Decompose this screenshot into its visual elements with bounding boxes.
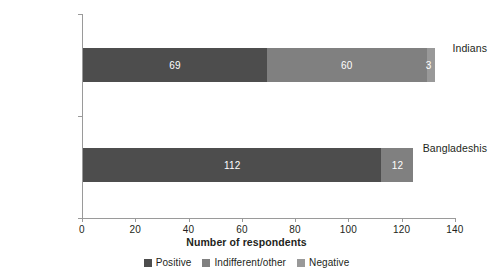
bar-segment-value: 12	[392, 160, 404, 171]
bar-segment-positive[interactable]: 112	[83, 148, 381, 182]
y-axis-line	[82, 14, 83, 218]
legend-swatch-icon	[297, 259, 305, 267]
legend-item-positive[interactable]: Positive	[144, 257, 192, 268]
chart-title-clipped	[0, 0, 493, 7]
x-axis-tick	[135, 218, 136, 222]
legend-item-indifferent[interactable]: Indifferent/other	[202, 257, 286, 268]
x-axis-tick	[402, 218, 403, 222]
x-axis-tick-label: 0	[79, 224, 85, 235]
x-axis-tick-label: 140	[446, 224, 463, 235]
x-axis-tick	[189, 218, 190, 222]
legend-swatch-icon	[144, 259, 152, 267]
x-axis-tick-label: 60	[236, 224, 248, 235]
stacked-bar-chart: Indians Bangladeshis 0 20 40 60 80 100 1…	[0, 0, 493, 274]
bar-row-indians[interactable]: 69 60 3	[83, 48, 435, 82]
legend-label: Indifferent/other	[214, 257, 286, 268]
x-axis-line	[82, 218, 455, 219]
bar-row-bangladeshis[interactable]: 112 12	[83, 148, 413, 182]
x-axis-tick	[348, 218, 349, 222]
legend-swatch-icon	[202, 259, 210, 267]
y-axis-tick	[78, 116, 82, 117]
x-axis-tick	[455, 218, 456, 222]
x-axis-tick-label: 40	[183, 224, 195, 235]
x-axis-tick	[295, 218, 296, 222]
y-axis-tick	[78, 14, 82, 15]
bar-segment-indifferent[interactable]: 60	[267, 48, 427, 82]
bar-segment-indifferent[interactable]: 12	[381, 148, 413, 182]
x-axis-title: Number of respondents	[0, 236, 493, 248]
x-axis-tick	[242, 218, 243, 222]
bar-segment-negative[interactable]: 3	[427, 48, 435, 82]
x-axis-tick-label: 80	[289, 224, 301, 235]
x-axis-tick-label: 120	[393, 224, 410, 235]
bar-segment-positive[interactable]: 69	[83, 48, 267, 82]
bar-segment-value: 3	[426, 60, 432, 71]
chart-legend: Positive Indifferent/other Negative	[0, 257, 493, 268]
bar-segment-value: 69	[169, 60, 181, 71]
legend-label: Positive	[156, 257, 192, 268]
plot-area: 0 20 40 60 80 100 120 140 69 60 3 112 12	[82, 14, 455, 218]
x-axis-tick-label: 20	[130, 224, 142, 235]
x-axis-tick-label: 100	[340, 224, 357, 235]
bar-segment-value: 60	[341, 60, 353, 71]
y-axis-category-label-indians: Indians	[452, 42, 487, 54]
bar-segment-value: 112	[224, 160, 241, 171]
legend-item-negative[interactable]: Negative	[297, 257, 349, 268]
legend-label: Negative	[309, 257, 349, 268]
x-axis-tick	[82, 218, 83, 222]
